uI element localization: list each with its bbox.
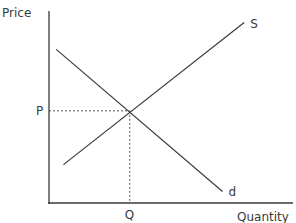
equilibrium-quantity-label: Q xyxy=(125,208,134,222)
supply-demand-chart: Price Quantity SdPQ xyxy=(0,0,296,223)
demand-label: d xyxy=(229,185,237,199)
y-axis-label: Price xyxy=(2,6,31,20)
x-axis-label: Quantity xyxy=(237,210,289,223)
equilibrium-price-label: P xyxy=(36,104,43,118)
supply-label: S xyxy=(250,17,258,31)
demand-curve xyxy=(56,49,222,191)
supply-curve xyxy=(63,23,244,165)
